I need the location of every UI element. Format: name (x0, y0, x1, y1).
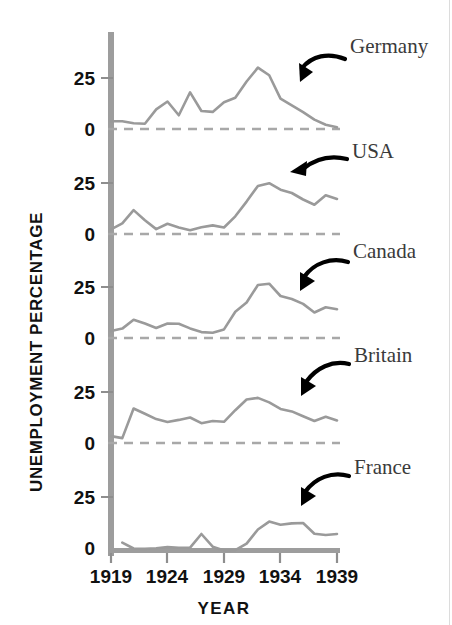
xtick-label-1934: 1934 (259, 566, 302, 587)
panel-usa: 25 0 USA (74, 139, 395, 245)
x-axis-tick-labels: 1919 1924 1929 1934 1939 (90, 566, 358, 587)
ytick-label-0-france: 0 (84, 538, 95, 559)
chart-container: 25 0 Germany 25 0 USA 25 0 (0, 0, 452, 625)
y-axis-spine (108, 32, 114, 556)
arrow-usa (303, 157, 347, 169)
panel-france: 25 0 France (74, 455, 411, 559)
right-edge-rule (449, 0, 450, 625)
series-label-canada: Canada (353, 239, 417, 263)
series-line-usa (111, 183, 337, 230)
series-line-canada (111, 284, 337, 333)
series-label-germany: Germany (350, 34, 429, 58)
arrow-head-usa (290, 161, 307, 176)
unemployment-line-chart: 25 0 Germany 25 0 USA 25 0 (0, 0, 452, 625)
arrow-france (305, 474, 349, 492)
panel-germany: 25 0 Germany (74, 34, 429, 140)
series-line-france (122, 522, 337, 551)
ytick-label-25-canada: 25 (74, 277, 96, 298)
ytick-label-0-britain: 0 (84, 433, 95, 454)
x-axis-ticks (111, 553, 337, 563)
ytick-label-0-usa: 0 (84, 224, 95, 245)
series-line-britain (111, 398, 337, 438)
panel-canada: 25 0 Canada (74, 239, 417, 349)
xtick-label-1939: 1939 (316, 566, 358, 587)
arrow-germany (302, 56, 345, 68)
ytick-label-25-france: 25 (74, 487, 96, 508)
xtick-label-1924: 1924 (146, 566, 189, 587)
series-label-france: France (354, 455, 411, 479)
ytick-label-0-canada: 0 (84, 328, 95, 349)
series-label-usa: USA (352, 139, 395, 163)
arrow-britain (306, 363, 349, 382)
ytick-label-25-usa: 25 (74, 173, 96, 194)
panel-britain: 25 0 Britain (74, 343, 413, 454)
xtick-label-1929: 1929 (203, 566, 245, 587)
xtick-label-1919: 1919 (90, 566, 132, 587)
ytick-label-25-britain: 25 (74, 382, 96, 403)
x-axis-title: YEAR (198, 599, 251, 618)
ytick-label-0-germany: 0 (84, 119, 95, 140)
series-label-britain: Britain (354, 343, 413, 367)
ytick-label-25-germany: 25 (74, 68, 96, 89)
arrow-canada (304, 260, 348, 277)
y-axis-title: UNEMPLOYMENT PERCENTAGE (27, 212, 46, 492)
